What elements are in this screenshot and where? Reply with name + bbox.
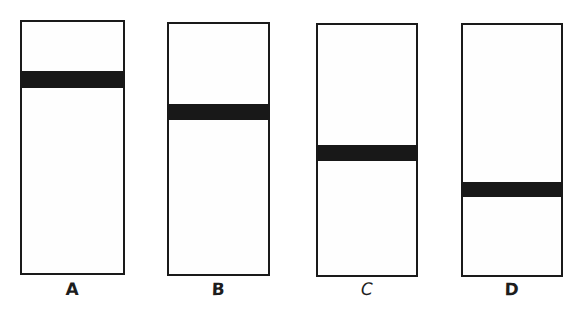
- column-group-b: [167, 22, 270, 276]
- column-label-c: C: [316, 278, 418, 300]
- column-band-figure: A B C D: [0, 0, 581, 317]
- solute-band-a: [20, 71, 125, 88]
- solute-band-c: [316, 145, 418, 161]
- solute-band-d: [461, 182, 563, 197]
- column-label-b: B: [167, 279, 271, 300]
- solute-band-b: [167, 104, 270, 120]
- column-label-d: D: [461, 280, 563, 299]
- column-outline-b: [167, 22, 270, 276]
- column-label-a: A: [20, 281, 125, 298]
- column-group-d: [461, 23, 563, 277]
- column-outline-d: [461, 23, 563, 277]
- column-group-a: [20, 20, 125, 275]
- column-outline-a: [20, 20, 125, 275]
- column-group-c: [316, 23, 418, 277]
